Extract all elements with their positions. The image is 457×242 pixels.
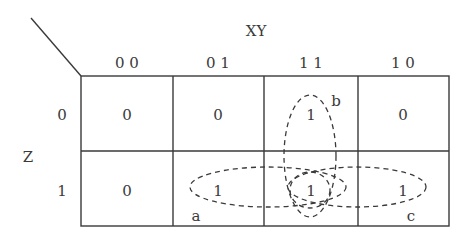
- karnaugh-map: XY Z 0 0 0 1 1 1 1 0 0 1 0 0 1 0 0 1 1 1…: [0, 0, 457, 242]
- cell-z0-xy10: 0: [398, 106, 408, 124]
- col-variable-label: XY: [246, 22, 268, 40]
- cell-z1-xy10: 1: [398, 182, 408, 200]
- cell-z0-xy00: 0: [122, 106, 132, 124]
- group-label-b: b: [331, 92, 341, 110]
- col-header-01: 0 1: [206, 54, 230, 72]
- cell-z1-xy01: 1: [213, 182, 223, 200]
- cell-z1-xy00: 0: [122, 182, 132, 200]
- row-header-1: 1: [57, 182, 67, 200]
- col-header-11: 1 1: [299, 54, 323, 72]
- cell-z0-xy11: 1: [306, 106, 316, 124]
- col-header-00: 0 0: [115, 54, 139, 72]
- row-header-0: 0: [57, 106, 67, 124]
- corner-diagonal: [31, 18, 81, 76]
- row-variable-label: Z: [23, 148, 33, 166]
- cell-z0-xy01: 0: [213, 106, 223, 124]
- cell-z1-xy11: 1: [306, 182, 316, 200]
- group-label-a: a: [192, 207, 201, 225]
- col-header-10: 1 0: [391, 54, 415, 72]
- group-label-c: c: [407, 207, 415, 225]
